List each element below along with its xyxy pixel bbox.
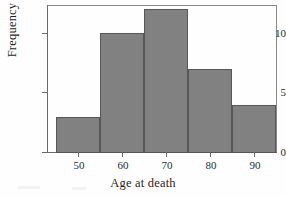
scan-artifact xyxy=(18,186,40,189)
y-axis-line xyxy=(47,5,48,153)
histogram-bar xyxy=(56,117,100,153)
histogram-bar xyxy=(144,9,188,153)
x-tick-label: 70 xyxy=(152,160,182,171)
x-tick-label: 90 xyxy=(240,160,270,171)
y-axis-title: Frequency xyxy=(5,0,20,95)
x-axis-title: Age at death xyxy=(0,176,286,191)
x-tick-mark xyxy=(78,152,79,157)
scan-artifact xyxy=(72,187,86,190)
x-tick-label: 80 xyxy=(196,160,226,171)
plot-frame-top xyxy=(47,5,277,6)
histogram-bar xyxy=(100,33,144,153)
histogram-figure: 0 5 10 50 60 70 80 90 Age at death Frequ… xyxy=(0,0,286,197)
x-tick-label: 50 xyxy=(64,160,94,171)
histogram-bar xyxy=(188,69,232,153)
x-tick-mark xyxy=(122,152,123,157)
x-tick-mark xyxy=(254,152,255,157)
x-tick-mark xyxy=(166,152,167,157)
x-tick-mark xyxy=(210,152,211,157)
y-tick-mark xyxy=(42,152,47,153)
y-tick-mark xyxy=(42,33,47,34)
y-tick-mark xyxy=(42,92,47,93)
y-axis-title-wrapper: Frequency xyxy=(5,0,21,95)
x-tick-label: 60 xyxy=(108,160,138,171)
y-tick-label: 10 xyxy=(248,28,286,39)
histogram-bar xyxy=(232,105,276,153)
y-tick-label: 5 xyxy=(248,87,286,98)
